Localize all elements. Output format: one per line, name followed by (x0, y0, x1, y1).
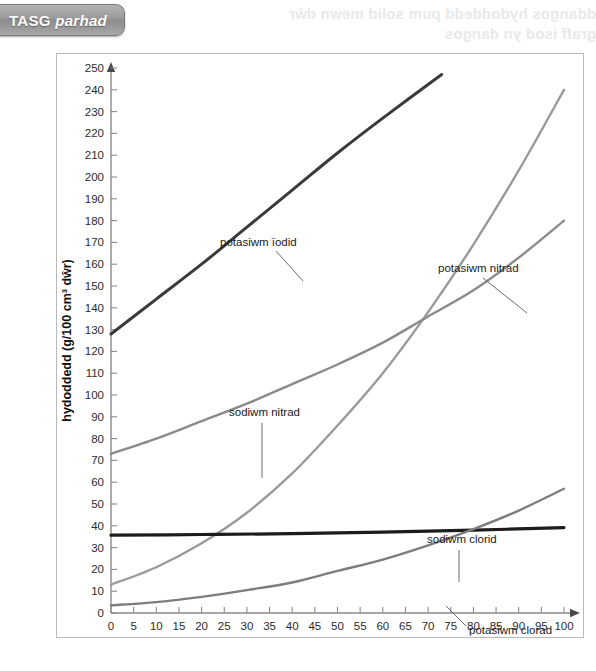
x-tick-label: 30 (241, 620, 254, 632)
y-tick-label: 10 (91, 585, 104, 597)
bleed-through-line-1: ddangos hydoddedd pum solid mewn dŵr (300, 4, 596, 24)
y-tick-label: 40 (91, 520, 104, 532)
y-tick-label: 70 (91, 454, 104, 466)
solubility-line-chart: 0102030405060708090100110120130140150160… (57, 54, 583, 637)
series-annotation-label: sodiwm nitrad (229, 406, 300, 418)
y-tick-label: 200 (85, 171, 104, 183)
x-tick-label: 60 (376, 620, 389, 632)
x-tick-label: 45 (308, 620, 321, 632)
task-banner-italic: parhad (55, 12, 107, 29)
y-tick-label: 110 (86, 367, 104, 379)
task-banner-label: TASG parhad (9, 12, 107, 29)
series-annotation-label: potasiwm ïodid (220, 236, 297, 248)
series-annotation-label: potasiwm clorad (469, 624, 552, 636)
y-tick-label: 120 (85, 345, 104, 357)
annotations-group: potasiwm ïodidpotasiwm nitradsodiwm nitr… (220, 236, 552, 636)
bleed-through-line-2: graff isod yn dangos (300, 24, 596, 44)
x-tick-label: 100 (554, 620, 573, 632)
task-banner-main: TASG (9, 12, 51, 29)
x-tick-label: 0 (108, 620, 114, 632)
y-tick-label: 220 (85, 127, 104, 139)
y-tick-label: 170 (85, 236, 104, 248)
series-group (111, 75, 564, 606)
x-tick-label: 15 (173, 620, 186, 632)
x-tick-label: 70 (422, 620, 435, 632)
x-tick-label: 35 (263, 620, 276, 632)
y-tick-label: 240 (85, 84, 104, 96)
y-tick-label: 140 (85, 302, 104, 314)
y-tick-label: 230 (85, 106, 104, 118)
y-tick-label: 180 (85, 215, 104, 227)
annotation-leader-line (483, 278, 527, 313)
y-tick-label: 100 (85, 389, 104, 401)
x-tick-label: 65 (399, 620, 412, 632)
y-tick-label: 90 (91, 411, 104, 423)
y-tick-label: 80 (91, 433, 104, 445)
series-annotation-label: sodiwm clorid (427, 533, 497, 545)
x-tick-label: 5 (130, 620, 136, 632)
x-tick-label: 40 (286, 620, 299, 632)
series-annotation-label: potasiwm nitrad (438, 262, 519, 274)
y-tick-label: 160 (85, 258, 104, 270)
x-tick-label: 75 (444, 620, 457, 632)
y-tick-label: 150 (85, 280, 104, 292)
series-line (111, 489, 564, 606)
x-axis-arrow (570, 609, 580, 617)
y-tick-label: 20 (91, 563, 104, 575)
annotation-leader-line (276, 251, 303, 281)
series-line (111, 221, 564, 454)
figure-frame: 0102030405060708090100110120130140150160… (56, 53, 584, 638)
axes-group: 0102030405060708090100110120130140150160… (85, 62, 580, 632)
y-axis-arrow (107, 62, 115, 72)
y-tick-label: 130 (85, 324, 104, 336)
y-tick-label: 50 (91, 498, 104, 510)
series-line (111, 90, 564, 585)
axis-titles-group: tymheredd (°C)hydoddedd (g/100 cm³ dŵr) (60, 259, 390, 637)
x-tick-label: 55 (354, 620, 367, 632)
y-tick-label: 60 (91, 476, 104, 488)
y-tick-label: 250 (85, 62, 104, 74)
y-tick-label: 190 (85, 193, 104, 205)
task-banner: TASG parhad (0, 4, 125, 36)
y-tick-label: 0 (98, 607, 104, 619)
x-tick-label: 10 (150, 620, 163, 632)
x-tick-label: 25 (218, 620, 231, 632)
x-tick-label: 20 (195, 620, 208, 632)
y-tick-label: 30 (91, 542, 104, 554)
y-axis-title: hydoddedd (g/100 cm³ dŵr) (60, 259, 74, 422)
series-line (111, 75, 442, 334)
y-tick-label: 210 (85, 149, 104, 161)
x-tick-label: 50 (331, 620, 344, 632)
